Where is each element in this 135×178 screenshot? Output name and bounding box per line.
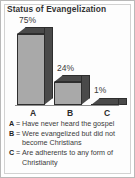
axis-label-c: C xyxy=(93,108,121,118)
bar-chart: 75% 24% 1% A B C xyxy=(1,15,130,111)
axis-label-b: B xyxy=(56,108,84,118)
chart-card: Status of Evangelization 75% 24% xyxy=(0,0,135,178)
legend-row-b: B = Were evangelized but did not become … xyxy=(9,129,129,148)
axis-baseline xyxy=(15,105,119,106)
bar-a-side xyxy=(44,27,53,105)
legend-text-a: Have never heard the gospel xyxy=(22,119,129,128)
bar-a-value-label: 75% xyxy=(19,15,36,25)
bar-a-front xyxy=(17,34,45,105)
bar-b-front xyxy=(54,82,82,105)
bar-b-side xyxy=(81,75,90,105)
legend-key-c: C xyxy=(9,148,16,157)
legend-key-b: B xyxy=(9,129,16,138)
legend-key-a: A xyxy=(9,119,16,128)
legend-text-c: Are adherents to any form of Christianit… xyxy=(22,148,129,167)
bar-c-value-label: 1% xyxy=(94,85,106,95)
axis-label-a: A xyxy=(19,108,47,118)
chart-legend: A = Have never heard the gospel B = Were… xyxy=(9,119,129,168)
bar-a xyxy=(17,27,53,105)
legend-row-c: C = Are adherents to any form of Christi… xyxy=(9,148,129,167)
legend-row-a: A = Have never heard the gospel xyxy=(9,119,129,128)
chart-title: Status of Evangelization xyxy=(7,4,106,14)
bar-b xyxy=(54,75,90,105)
plot-area: 75% 24% 1% A B C xyxy=(1,15,130,111)
legend-text-b: Were evangelized but did not become Chri… xyxy=(22,129,129,148)
bar-b-value-label: 24% xyxy=(57,63,74,73)
